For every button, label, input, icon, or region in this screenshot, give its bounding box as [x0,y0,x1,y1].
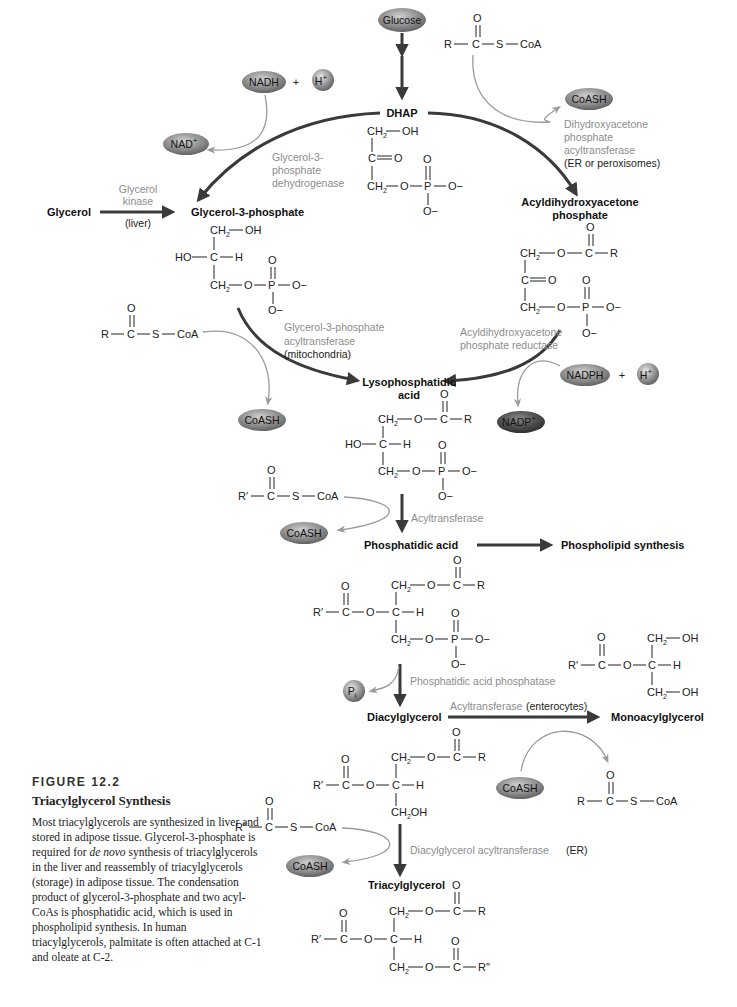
svg-text:R: R [478,751,486,763]
svg-text:R′: R′ [238,490,248,502]
svg-text:C: C [585,247,593,259]
svg-text:O−: O− [606,301,621,313]
svg-text:C: C [453,905,461,917]
svg-text:O: O [400,180,409,192]
svg-text:CoASH: CoASH [292,860,327,872]
svg-text:R: R [101,328,109,340]
svg-text:CH2: CH2 [647,632,667,646]
svg-text:C: C [648,659,656,671]
figure-caption: FIGURE 12.2 Triacylglycerol Synthesis Mo… [32,775,262,965]
svg-text:CoA: CoA [656,795,678,807]
coash-pill-mag: CoASH [496,777,544,799]
svg-text:H: H [416,606,424,618]
svg-text:R′: R′ [313,779,323,791]
svg-text:O: O [394,152,403,164]
svg-text:R: R [577,795,585,807]
svg-text:S: S [292,490,299,502]
svg-text:phosphate: phosphate [564,131,613,143]
enzyme-pa-phosphatase: Phosphatidic acid phosphatase [410,675,556,687]
svg-text:O−: O− [582,327,597,339]
svg-text:HO: HO [175,251,192,263]
svg-text:C: C [472,38,480,50]
svg-text:C: C [453,751,461,763]
svg-text:O: O [341,753,350,765]
h-plus-ball: H+ [312,69,334,91]
enzyme-dhap-acyltransferase: Dihydroxyacetone phosphate acyltransfera… [564,118,660,169]
enzyme-glycerol-kinase: Glycerol kinase (liver) [119,183,158,229]
svg-text:O: O [267,464,276,476]
pi-ball: Pi [343,680,365,702]
caption-italic: de novo [89,846,125,858]
nadh-pill: NADH [242,71,286,93]
caption-text-2: synthesis of triacylglycerols in the liv… [32,846,262,963]
svg-text:S: S [630,795,637,807]
svg-text:dehydrogenase: dehydrogenase [272,177,345,189]
mag-structure: O CH2 OH R′ C O C H CH2 OH [568,631,699,700]
svg-text:NADPH: NADPH [567,369,604,381]
svg-text:C: C [390,933,398,945]
svg-text:CH2: CH2 [210,279,230,293]
svg-text:CoASH: CoASH [286,527,321,539]
svg-text:kinase: kinase [123,195,154,207]
svg-text:C: C [440,413,448,425]
svg-text:O: O [341,580,350,592]
svg-text:(ER or peroxisomes): (ER or peroxisomes) [564,157,660,169]
svg-text:CH2: CH2 [389,905,409,919]
svg-text:S: S [496,38,503,50]
svg-text:O: O [473,12,482,24]
svg-text:C: C [453,579,461,591]
svg-text:O: O [425,905,434,917]
svg-text:CoA: CoA [177,328,199,340]
pa-structure: O CH2 O C R O R′ C O C H O CH2 O P O− O− [313,554,490,670]
svg-text:O: O [127,302,136,314]
svg-text:R′: R′ [311,933,321,945]
svg-text:O−: O− [268,304,283,316]
svg-text:C: C [210,251,218,263]
plus-sign: + [293,76,299,88]
svg-text:CH2: CH2 [391,579,411,593]
svg-text:CH2: CH2 [378,465,398,479]
acyl-coa-r2-to-coash-arrow [342,828,390,862]
svg-text:O: O [452,879,461,891]
svg-text:Glycerol-3-: Glycerol-3- [272,151,324,163]
svg-text:OH: OH [402,125,419,137]
svg-text:C: C [368,152,376,164]
svg-text:R: R [477,579,485,591]
svg-text:O: O [440,388,449,400]
svg-text:O−: O− [438,490,453,502]
nad-plus-pill: NAD+ [163,133,209,155]
dhap-label: DHAP [386,107,417,119]
svg-text:C: C [392,606,400,618]
coash-pill-lpa: CoASH [280,522,328,544]
svg-text:C: C [379,438,387,450]
svg-text:C: C [598,659,606,671]
svg-text:O: O [606,769,615,781]
svg-text:acid: acid [398,389,420,401]
svg-text:H: H [416,779,424,791]
svg-text:CH2: CH2 [391,633,411,647]
svg-text:O: O [366,606,375,618]
acyl-coa-r1: O R′ C S CoA [238,464,339,502]
svg-text:Acyldihydroxyacetone: Acyldihydroxyacetone [460,326,562,338]
svg-text:acyltransferase: acyltransferase [564,144,635,156]
svg-text:R″: R″ [478,961,490,973]
svg-text:OH: OH [682,632,699,644]
svg-text:O: O [244,279,253,291]
svg-text:CoA: CoA [520,38,542,50]
svg-text:R: R [610,247,618,259]
svg-text:Diacylglycerol acyltransferase: Diacylglycerol acyltransferase [410,844,549,856]
diacylglycerol-label: Diacylglycerol [367,711,442,723]
enzyme-acyltransferase: Acyltransferase [411,512,484,524]
svg-text:CoASH: CoASH [571,93,606,105]
coash-pill-g3p: CoASH [238,409,286,431]
acyl-coa-left: O R C S CoA [101,302,199,340]
h-plus-ball-2: H+ [637,363,659,385]
svg-text:CoA: CoA [317,490,339,502]
svg-text:R′: R′ [313,606,323,618]
enzyme-g3p-acyltransferase: Glycerol-3-phosphate acyltransferase (mi… [284,321,385,360]
monoacylglycerol-label: Monoacylglycerol [611,711,704,723]
svg-text:O−: O− [448,180,463,192]
svg-text:H: H [673,659,681,671]
svg-text:OH: OH [245,224,262,236]
svg-text:Dihydroxyacetone: Dihydroxyacetone [564,118,648,130]
